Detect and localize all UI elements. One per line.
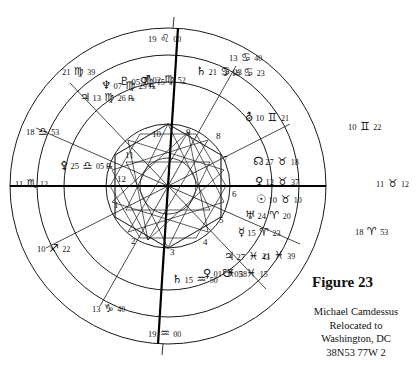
retrograde-icon: ℞ xyxy=(104,162,114,171)
house-number-7: 7 xyxy=(223,155,228,164)
planet-degree: 15 xyxy=(245,228,256,238)
planet-degree: 13 xyxy=(90,93,101,103)
cusp-sign-glyph: ♐ xyxy=(46,242,63,255)
house-number-10: 10 xyxy=(152,130,161,139)
planet-sign-glyph: ♉ xyxy=(274,175,291,188)
planet-minute: 43 xyxy=(262,253,270,262)
cusp-sign-glyph: ♒ xyxy=(157,327,174,340)
planet-minute: 10 xyxy=(294,196,302,205)
cusp-minute: 39 xyxy=(87,68,95,77)
house-number-8: 8 xyxy=(216,132,221,141)
cusp-degree: 11 xyxy=(376,179,384,189)
cusp-sign-glyph: ♉ xyxy=(384,177,401,190)
planet-mars: ♂ 02 ♍ 52 xyxy=(140,70,186,86)
planet-sign-glyph: ♒ xyxy=(193,273,210,286)
planet-sun: ☉ 10 ♉ 10 xyxy=(256,190,302,206)
planet-minute: 15 xyxy=(260,270,268,279)
cusp-minute: 12 xyxy=(40,180,48,189)
north-node-icon: ☊ xyxy=(253,154,263,168)
pluto-icon: ♇ xyxy=(119,74,129,88)
cusp-minute: 00 xyxy=(173,35,181,44)
caption-line3: Washington, DC xyxy=(296,332,416,346)
house-number-3: 3 xyxy=(170,248,175,257)
planet-sign-glyph: ♓ xyxy=(243,267,260,280)
neptune-icon: ♆ xyxy=(101,78,111,92)
cusp-degree: 10 xyxy=(37,244,46,254)
planet-minute: 52 xyxy=(178,76,186,85)
house-number-12: 12 xyxy=(117,175,126,184)
cusp-sign-glyph: ♊ xyxy=(357,120,374,133)
planet-sign-glyph: ♊ xyxy=(264,111,281,124)
planet-degree: 05 xyxy=(232,269,243,279)
cusp-degree: 10 xyxy=(348,122,357,132)
cusp-sign-glyph: ♓ xyxy=(271,249,288,262)
house-number-9: 9 xyxy=(186,128,191,137)
moon-icon: ☽ xyxy=(219,65,229,79)
planet-sign-glyph: ♍ xyxy=(101,91,118,104)
cusp-sign-glyph: ♎ xyxy=(35,125,52,138)
cusp-sign-glyph: ♍ xyxy=(71,65,88,78)
zodiac-cusp-label: 19 ♒ 00 xyxy=(148,324,181,340)
cusp-degree: 19 xyxy=(148,34,157,44)
zodiac-cusp-label: 18 ♎ 53 xyxy=(26,122,59,138)
figure-caption: Michael Camdessus Relocated to Washingto… xyxy=(296,305,416,360)
cusp-minute: 39 xyxy=(287,252,295,261)
planet-minute: 05 xyxy=(96,162,104,171)
sun-icon: ☉ xyxy=(256,192,266,206)
planet-degree: 12 xyxy=(263,177,274,187)
planet-sign-glyph: ♈ xyxy=(256,226,273,239)
cusp-minute: 12 xyxy=(401,180,409,189)
cusp-minute: 22 xyxy=(62,245,70,254)
zodiac-cusp-label: 19 ♌ 00 xyxy=(148,29,181,45)
planet-minute: 21 xyxy=(281,114,289,123)
zodiac-cusp-label: 11 ♏ 12 xyxy=(15,174,48,190)
cusp-minute: 53 xyxy=(51,128,59,137)
cusp-sign-glyph: ♈ xyxy=(364,225,381,238)
planet-minute: 50 xyxy=(210,276,218,285)
planet-minute: 20 xyxy=(283,212,291,221)
planet-sign-glyph: ♉ xyxy=(274,155,291,168)
planet-degree: 10 xyxy=(253,113,264,123)
cusp-minute: 40 xyxy=(254,54,262,63)
jupiter-pisces-icon: ♃ xyxy=(224,249,234,263)
planet-venus: ♀ 12 ♉ 37 xyxy=(255,172,299,188)
planet-degree: 10 xyxy=(266,195,277,205)
planet-sign-glyph: ♋ xyxy=(240,66,257,79)
planet-minute: 37 xyxy=(291,178,299,187)
cusp-minute: 22 xyxy=(373,123,381,132)
planet-sign-glyph: ♎ xyxy=(79,159,96,172)
planet-sign-glyph: ♉ xyxy=(277,193,294,206)
cusp-minute: 00 xyxy=(173,330,181,339)
planet-degree: 21 xyxy=(206,67,217,77)
uranus-alt-icon: ♅ xyxy=(245,208,255,222)
caption-line4: 38N53 77W 2 xyxy=(296,346,416,360)
house-number-4: 4 xyxy=(203,238,208,247)
planet-degree: 15 xyxy=(182,275,193,285)
cusp-minute: 53 xyxy=(380,228,388,237)
cusp-sign-glyph: ♑ xyxy=(101,302,118,315)
house-number-11: 11 xyxy=(125,151,134,160)
cusp-sign-glyph: ♏ xyxy=(23,177,40,190)
planet-north-node: ☊ 27 ♉ 18 xyxy=(253,152,299,168)
house-number-6: 6 xyxy=(232,190,237,199)
planet-saturn-aqua: ♄ 15 ♒ 50 xyxy=(172,270,218,286)
zodiac-cusp-label: 18 ♈ 53 xyxy=(355,222,388,238)
planet-uranus-alt: ♅ 24 ♈ 20 xyxy=(245,206,291,222)
cusp-degree: 18 xyxy=(26,127,35,137)
saturn-icon: ♄ xyxy=(196,64,206,78)
retrograde-icon: ℞ xyxy=(126,94,136,103)
planet-sign-glyph: ♈ xyxy=(266,209,283,222)
cusp-degree: 11 xyxy=(15,179,23,189)
planet-sign-glyph: ♓ xyxy=(245,250,262,263)
planet-degree: 05 xyxy=(129,77,140,87)
south-node-icon: ☋ xyxy=(222,266,232,280)
planet-degree: 27 xyxy=(263,157,274,167)
jupiter-icon: ♃ xyxy=(80,90,90,104)
zodiac-cusp-label: 21 ♍ 39 xyxy=(62,62,95,78)
planet-pallas: ⚴ 25 ♎ 05 ℞ xyxy=(60,156,113,172)
cusp-degree: 13 xyxy=(92,304,101,314)
planet-degree: 24 xyxy=(255,211,266,221)
planet-sign-glyph: ♍ xyxy=(161,73,178,86)
caption-line2: Relocated to xyxy=(296,319,416,333)
mars-icon: ♂ xyxy=(140,72,150,86)
